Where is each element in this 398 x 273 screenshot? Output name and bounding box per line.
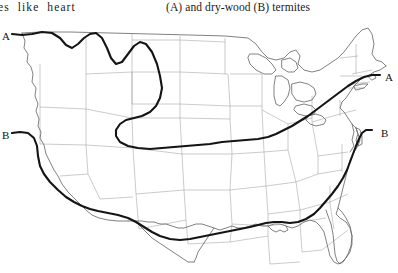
range-label-a-west: A xyxy=(2,31,10,42)
range-line-a xyxy=(12,32,380,149)
range-label-b-west: B xyxy=(2,130,9,141)
range-label-a-east: A xyxy=(385,72,393,83)
range-label-b-east: B xyxy=(381,128,388,139)
national-outline xyxy=(22,28,386,264)
figure-page: es like heart (A) and dry-wood (B) termi… xyxy=(0,0,398,273)
caption-left-fragment: es like heart xyxy=(0,1,76,14)
us-termite-distribution-map: A B A B xyxy=(0,14,398,273)
caption-right-fragment: (A) and dry-wood (B) termites xyxy=(166,1,310,14)
map-svg xyxy=(0,14,398,273)
